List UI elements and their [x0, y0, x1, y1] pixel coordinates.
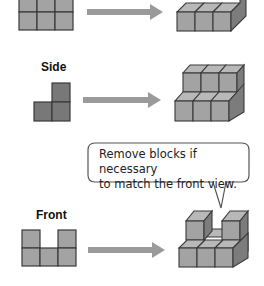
- top-view-grid: [19, 0, 73, 30]
- arrow-icon: [87, 4, 163, 20]
- arrow-icon: [88, 242, 165, 258]
- diagram-canvas: [0, 0, 264, 286]
- callout-line-2: to match the front view.: [99, 177, 249, 192]
- side-label: Side: [41, 60, 66, 74]
- side-result-blocks: [175, 65, 244, 121]
- callout-line-1: Remove blocks if necessary: [99, 147, 249, 177]
- front-result-blocks: [179, 211, 248, 267]
- front-view-shape: [22, 230, 76, 266]
- side-view-shape: [34, 83, 70, 121]
- callout-text: Remove blocks if necessary to match the …: [99, 147, 249, 192]
- front-label: Front: [36, 208, 67, 222]
- arrow-icon: [83, 92, 161, 108]
- top-result-blocks: [177, 0, 246, 31]
